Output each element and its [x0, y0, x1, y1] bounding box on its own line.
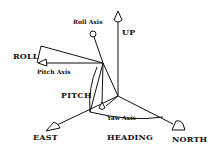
- pitch-label: PITCH: [61, 91, 92, 99]
- roll-axis-line: [94, 37, 103, 63]
- up-arrow-icon: [114, 11, 122, 22]
- axes-drawing: [0, 0, 218, 151]
- roll-label: ROLL: [13, 52, 39, 60]
- up-label: UP: [122, 28, 135, 36]
- roll-axis-arrow-icon: [90, 31, 96, 37]
- roll-plane: [37, 46, 103, 63]
- orientation-diagram: UP Roll Axis ROLL Pitch Axis PITCH Yaw A…: [0, 0, 218, 151]
- roll-axis-label: Roll Axis: [73, 19, 103, 25]
- north-arrow-icon: [172, 121, 185, 130]
- yaw-axis-label: Yaw Axis: [107, 115, 136, 121]
- pitch-axis-arrow-icon: [38, 59, 47, 66]
- east-arrow-icon: [46, 122, 60, 131]
- east-label: EAST: [33, 133, 58, 141]
- pitch-axis-label: Pitch Axis: [37, 69, 71, 75]
- north-label: NORTH: [172, 135, 207, 143]
- heading-label: HEADING: [107, 133, 153, 141]
